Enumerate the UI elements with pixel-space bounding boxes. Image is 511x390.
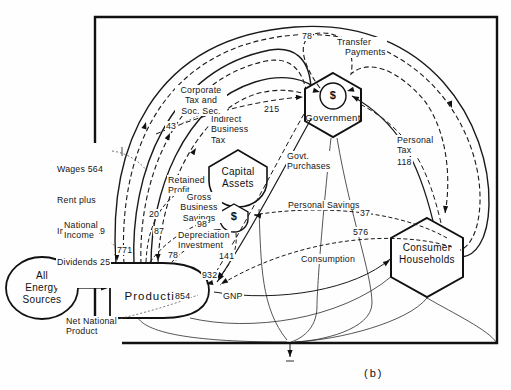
corporate-tax-value: 43 [165,121,177,131]
net-national-product-value: 854 [174,291,191,301]
depreciation-value: 78 [167,250,179,260]
consumption-label: Consumption [300,254,356,264]
savings-pool-dollar-symbol: $ [220,211,248,222]
arrow-arc-up-2 [165,132,173,141]
gross-business-savings-value: 98 [196,219,208,229]
indirect-business-tax-label: Indirect Business Tax [210,114,249,145]
gnp-value: 932 [201,270,218,280]
dividends-leader [112,151,147,171]
national-income-value: 771 [116,245,133,255]
arrow-waste-exit [287,350,292,357]
wages-label: Wages 564 [57,164,110,174]
govt-purchases-value: 215 [263,104,280,114]
indirect-business-tax-value: 87 [153,226,165,236]
personal-tax-label: Personal Tax [396,135,434,156]
net-national-product-label: Net National Product [65,316,118,337]
rent-label: Rent plus [57,195,110,205]
govt-purchases-label: Govt. Purchases [286,151,331,172]
arrow-corporate-tax [296,94,303,100]
transfer-payments-label: Transfer Payments [336,37,387,58]
households-waste-line [294,298,427,342]
national-income-label: National Income [63,220,99,241]
retained-profit-value: 20 [148,209,160,219]
factor-payments-block: Wages 564 Rent plus Interest 119 Dividen… [56,143,111,288]
energy-to-households-line [190,276,392,324]
government-label: Government [303,112,363,124]
dividends-label: Dividends 25 [57,257,110,267]
personal-savings-value: 37 [359,208,371,218]
corporate-tax-label: Corporate Tax and Soc. Sec. [175,85,227,116]
figure-caption: (b) [364,368,383,379]
arrow-consumption-576 [220,278,229,286]
transfer-payments-value: 78 [301,31,313,41]
arrow-arc-up-3 [190,147,198,156]
personal-tax-curve-solid [352,96,433,221]
arrow-personal-savings [254,212,262,218]
investment-value: 141 [218,251,235,261]
depreciation-investment-label: Depreciation Investment [177,230,231,251]
personal-tax-value: 118 [396,157,413,167]
arrow-into-production-2 [155,254,160,261]
personal-savings-label: Personal Savings [287,200,361,210]
energy-economy-flow-diagram: All Energy Sources Production $ Governme… [0,0,511,390]
households-corner-line [427,298,496,342]
consumption-value: 576 [352,227,369,237]
government-dollar-symbol: $ [319,90,347,101]
consumer-households-label: Consumer Households [391,242,463,266]
gnp-label: GNP [222,291,244,301]
capital-assets-label: Capital Assets [209,166,267,190]
arrow-transfer-payments [442,206,448,213]
